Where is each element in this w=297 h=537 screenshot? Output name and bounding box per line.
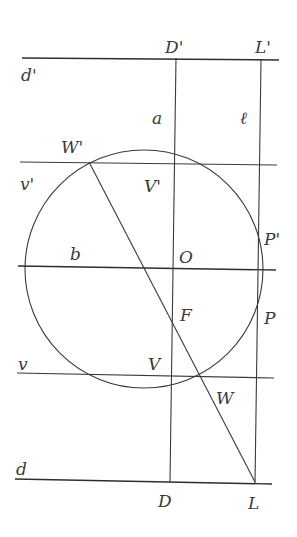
label-l-prime: L' — [254, 37, 271, 57]
chord-w-prime-l — [89, 162, 255, 482]
label-d-prime: d' — [21, 65, 37, 85]
label-l: L — [247, 493, 259, 513]
label-v: V — [148, 354, 162, 374]
line-v — [17, 373, 274, 378]
label-ell: ℓ — [240, 108, 247, 128]
label-f: F — [179, 305, 193, 325]
label-o: O — [179, 247, 193, 267]
label-w: W — [216, 388, 235, 408]
label-p-prime: P' — [263, 229, 280, 249]
line-d — [15, 479, 272, 484]
line-b — [18, 266, 276, 270]
label-v-prime: V' — [144, 176, 161, 196]
line-a — [170, 58, 176, 482]
label-b: b — [70, 244, 81, 264]
label-d-prime: D' — [164, 37, 183, 57]
line-v-prime — [20, 162, 277, 165]
line-d-prime — [22, 58, 279, 60]
label-p: P — [263, 308, 276, 328]
label-d: d — [16, 459, 27, 479]
label-a: a — [152, 108, 162, 128]
label-w-prime: W' — [61, 137, 83, 157]
line-l — [255, 60, 261, 484]
label-d: D — [157, 491, 172, 511]
geometry-diagram: D'L'd'aℓW'v'V'P'bOFPvVWdDL — [0, 0, 297, 537]
label-v-prime: v' — [20, 174, 34, 194]
label-v: v — [18, 354, 28, 374]
